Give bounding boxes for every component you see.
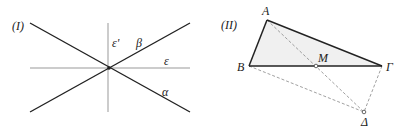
label-A: A	[261, 4, 270, 18]
label-alpha: α	[162, 85, 169, 99]
label-M: M	[317, 51, 329, 65]
figure-2-label: (II)	[221, 18, 237, 32]
segment-B-D	[249, 66, 364, 112]
intersection-point	[107, 66, 111, 70]
figure-1-label: (I)	[12, 19, 24, 33]
segment-G-D	[364, 66, 382, 112]
point-D	[362, 110, 366, 114]
triangle-ABG-fill	[249, 20, 382, 66]
label-beta: β	[135, 36, 142, 50]
figure-1: (I) ε' β ε α	[12, 19, 190, 112]
label-epsilon: ε	[164, 54, 169, 68]
label-Delta: Δ	[360, 115, 368, 129]
label-B: B	[237, 60, 245, 74]
label-epsilon-prime: ε'	[112, 36, 120, 50]
diagram-canvas: (I) ε' β ε α (II) A B M Γ Δ	[0, 0, 403, 130]
label-Gamma: Γ	[385, 60, 394, 74]
figure-2: (II) A B M Γ Δ	[221, 4, 394, 129]
